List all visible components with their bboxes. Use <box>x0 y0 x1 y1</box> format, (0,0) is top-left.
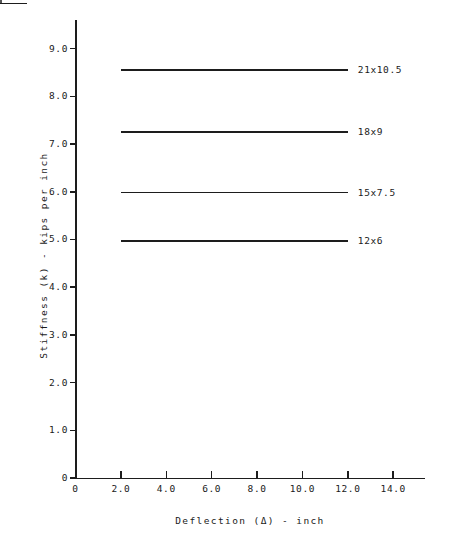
stiffness-deflection-chart: 01.02.03.04.05.06.07.08.09.0 02.04.06.08… <box>0 0 454 553</box>
x-axis-extension <box>0 3 27 4</box>
y-tick-label-0: 0 <box>8 473 68 483</box>
series-label-21x10.5: 21x10.5 <box>358 65 402 75</box>
x-axis-title: Deflection (Δ) - inch <box>75 515 425 526</box>
x-tick-6.0 <box>211 471 213 478</box>
x-tick-4.0 <box>166 471 168 478</box>
y-tick-label-9.0: 9.0 <box>8 44 68 54</box>
series-label-18x9: 18x9 <box>358 127 383 137</box>
y-tick-1.0 <box>70 430 77 432</box>
y-tick-7.0 <box>70 143 77 145</box>
y-tick-label-8.0: 8.0 <box>8 91 68 101</box>
y-tick-8.0 <box>70 96 77 98</box>
y-tick-6.0 <box>70 191 77 193</box>
x-tick-0 <box>75 471 77 478</box>
x-tick-10.0 <box>302 471 304 478</box>
series-label-12x6: 12x6 <box>358 236 383 246</box>
y-tick-5.0 <box>70 239 77 241</box>
series-line-15x7.5 <box>121 192 348 194</box>
y-axis-title: Stiffness (k) - kips per inch <box>38 136 49 376</box>
x-tick-12.0 <box>347 471 349 478</box>
x-tick-2.0 <box>120 471 122 478</box>
x-axis-line <box>75 478 425 480</box>
y-axis-line <box>75 20 77 479</box>
x-tick-label-14.0: 14.0 <box>363 484 423 494</box>
y-tick-label-2.0: 2.0 <box>8 378 68 388</box>
x-tick-8.0 <box>256 471 258 478</box>
series-line-18x9 <box>121 131 348 133</box>
y-tick-2.0 <box>70 382 77 384</box>
y-tick-label-1.0: 1.0 <box>8 425 68 435</box>
series-line-21x10.5 <box>121 69 348 71</box>
series-line-12x6 <box>121 240 348 242</box>
series-label-15x7.5: 15x7.5 <box>358 188 396 198</box>
y-tick-9.0 <box>70 48 77 50</box>
y-tick-4.0 <box>70 286 77 288</box>
y-tick-3.0 <box>70 334 77 336</box>
x-tick-14.0 <box>392 471 394 478</box>
